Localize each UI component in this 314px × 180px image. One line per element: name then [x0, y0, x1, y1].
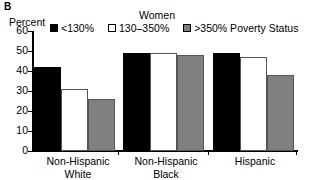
bar-white-130350 — [61, 89, 88, 151]
bar-black-gt350 — [177, 55, 204, 151]
bar-black-130350 — [150, 53, 177, 151]
bar-hispanic-gt350 — [267, 75, 294, 151]
x-category-line2: Black — [108, 168, 224, 180]
bar-hispanic-130350 — [240, 57, 267, 151]
x-category-line1: Hispanic — [210, 155, 300, 168]
bar-white-gt350 — [88, 99, 115, 151]
bar-white-lt130 — [34, 67, 61, 151]
x-category-line1: Non-Hispanic — [108, 155, 224, 168]
x-category-label-nh-black: Non-Hispanic Black — [108, 155, 224, 179]
plot-area — [32, 31, 298, 151]
x-category-label-hispanic: Hispanic — [210, 155, 300, 168]
chart-figure: B Women <130% 130–350% >350% Poverty Sta… — [0, 0, 314, 179]
bar-black-lt130 — [123, 53, 150, 151]
bar-hispanic-lt130 — [213, 53, 240, 151]
chart-title: Women — [0, 9, 314, 21]
